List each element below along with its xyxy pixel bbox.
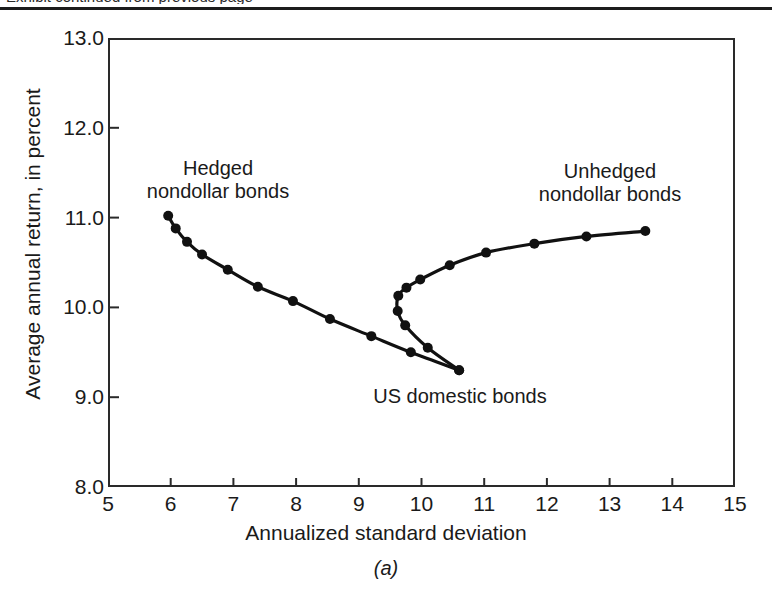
x-axis-title: Annualized standard deviation — [0, 521, 772, 545]
data-point — [393, 291, 403, 301]
annotation-unhedged-nondollar-bonds: Unhedged nondollar bonds — [505, 160, 715, 206]
x-tick-label: 6 — [151, 492, 191, 516]
data-point — [406, 347, 416, 357]
annotation-hedged-nondollar-bonds: Hedged nondollar bonds — [118, 157, 318, 203]
x-tick-label: 8 — [276, 492, 316, 516]
data-point — [197, 249, 207, 259]
data-point — [288, 296, 298, 306]
data-point — [581, 231, 591, 241]
data-point — [223, 265, 233, 275]
series-layer — [163, 211, 650, 375]
x-tick-label: 9 — [339, 492, 379, 516]
x-tick-label: 7 — [213, 492, 253, 516]
y-tick-label: 11.0 — [42, 207, 104, 228]
y-tick-label: 13.0 — [42, 27, 104, 48]
y-tick-label: 12.0 — [42, 117, 104, 138]
data-point — [393, 306, 403, 316]
data-point — [325, 314, 335, 324]
x-tick-label: 11 — [464, 492, 504, 516]
annotation-us-domestic-bonds: US domestic bonds — [320, 385, 600, 408]
data-point — [481, 248, 491, 258]
data-point — [640, 226, 650, 236]
data-point — [366, 331, 376, 341]
x-tick-label: 15 — [715, 492, 755, 516]
series-line-1 — [397, 231, 645, 370]
series-line-0 — [168, 216, 459, 370]
y-axis-title: Average annual return, in percent — [21, 39, 45, 449]
x-tick-label: 5 — [88, 492, 128, 516]
y-tick-label: 10.0 — [42, 296, 104, 317]
data-point — [163, 211, 173, 221]
data-point — [171, 223, 181, 233]
x-tick-label: 10 — [402, 492, 442, 516]
data-point — [454, 365, 464, 375]
data-point — [529, 239, 539, 249]
data-point — [253, 282, 263, 292]
data-point — [401, 283, 411, 293]
x-tick-label: 12 — [527, 492, 567, 516]
data-point — [182, 237, 192, 247]
data-point — [400, 320, 410, 330]
y-tick-label: 9.0 — [42, 386, 104, 407]
x-tick-label: 13 — [590, 492, 630, 516]
data-point — [445, 260, 455, 270]
data-point — [415, 275, 425, 285]
figure-root: Exhibit continued from previous page 13.… — [0, 0, 772, 604]
data-point — [423, 343, 433, 353]
figure-caption: (a) — [0, 557, 772, 580]
x-tick-label: 14 — [652, 492, 692, 516]
